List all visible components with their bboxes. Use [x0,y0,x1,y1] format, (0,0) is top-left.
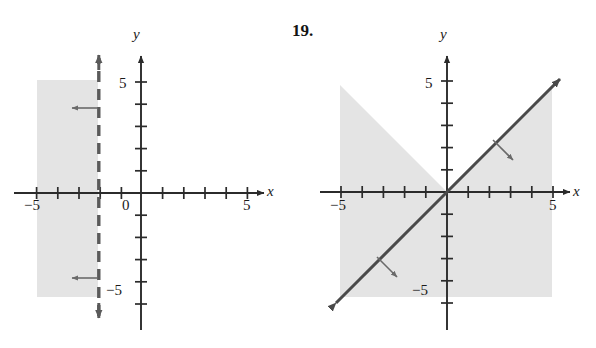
graphs-svg [0,0,596,348]
exercise-number-label: 19. [292,22,313,39]
left-xtick-label-pos5: 5 [243,198,251,213]
right-xtick-label-pos5: 5 [549,198,557,213]
left-origin-label: 0 [122,198,130,213]
left-ytick-label-neg5: −5 [106,283,122,298]
right-x-axis-label: x [573,184,580,199]
left-shaded-region [37,80,98,297]
right-ytick-label-pos5: 5 [425,76,433,91]
right-y-axis-label: y [440,27,447,42]
right-graph [320,56,570,330]
right-xtick-label-neg5: −5 [330,198,346,213]
right-ytick-label-neg5: −5 [412,283,428,298]
left-graph [14,55,264,330]
figure-page: 19. y x −5 0 5 5 −5 y x −5 5 5 −5 [0,0,596,348]
left-xtick-label-neg5: −5 [24,198,40,213]
left-y-axis-label: y [133,27,140,42]
left-ytick-label-pos5: 5 [119,76,127,91]
left-x-axis-label: x [267,184,274,199]
